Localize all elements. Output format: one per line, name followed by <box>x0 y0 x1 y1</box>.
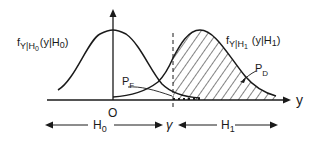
h0-curve-label: fY|H0(y|H0) <box>17 36 68 52</box>
svg-text:fY|H0(y|H0): fY|H0(y|H0) <box>17 36 68 52</box>
h0-region-indicator: H0 <box>45 118 163 134</box>
y-axis <box>110 9 117 100</box>
false-alarm-pointer <box>128 87 172 96</box>
x-axis-label: y <box>296 92 303 108</box>
h0-region-label: H0 <box>93 118 107 134</box>
h1-region-label: H1 <box>221 118 235 134</box>
h0-right-arrow-icon <box>155 122 163 129</box>
h1-region-indicator: H1 <box>178 118 278 134</box>
threshold-label: γ <box>166 117 174 132</box>
svg-text:fY|H1(y|H1): fY|H1(y|H1) <box>226 34 280 50</box>
hypothesis-density-diagram: y O fY|H0(y|H0) fY|H1(y|H1) PF PD <box>0 0 316 146</box>
origin-label: O <box>108 106 117 120</box>
h1-right-arrow-icon <box>270 122 278 129</box>
x-axis-arrow-icon <box>283 97 291 104</box>
detection-label: PD <box>255 62 268 78</box>
h1-curve-label: fY|H1(y|H1) <box>226 34 280 50</box>
false-alarm-label: PF <box>122 75 134 90</box>
y-axis-arrow-icon <box>110 9 117 17</box>
h0-left-arrow-icon <box>45 122 53 129</box>
